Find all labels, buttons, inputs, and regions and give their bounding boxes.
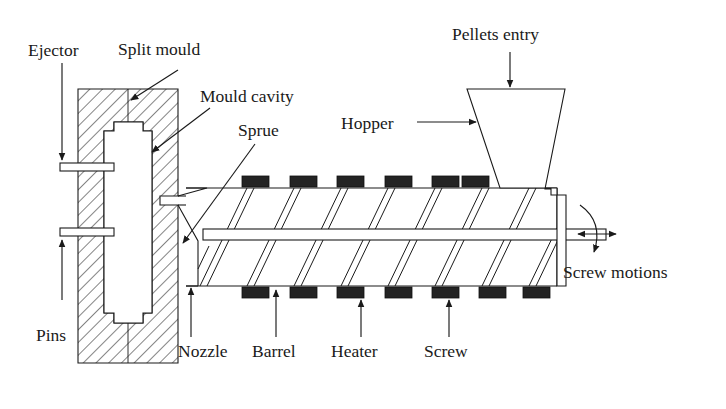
heater-block [432, 176, 459, 187]
heater-block [523, 287, 550, 298]
label-pellets-entry: Pellets entry [452, 24, 539, 44]
label-screw-motions: Screw motions [563, 262, 668, 282]
screw-shaft-rod [203, 229, 606, 240]
nozzle-upper-taper [178, 188, 207, 196]
heater-block [337, 287, 364, 298]
heater-block [290, 287, 317, 298]
heater-block [290, 176, 317, 187]
label-nozzle: Nozzle [178, 341, 228, 361]
label-split-mould: Split mould [118, 39, 200, 59]
label-pins: Pins [36, 325, 66, 345]
heater-block [385, 176, 412, 187]
label-barrel: Barrel [252, 341, 296, 361]
split-mould-assembly [78, 89, 178, 363]
heater-block [385, 287, 412, 298]
label-mould-cavity: Mould cavity [200, 86, 294, 106]
nozzle-lower-taper [178, 205, 198, 286]
label-sprue: Sprue [238, 120, 279, 140]
heater-block [337, 176, 364, 187]
label-hopper: Hopper [341, 113, 394, 133]
heater-block [462, 176, 489, 187]
heater-block [432, 287, 459, 298]
screw-shaft [203, 229, 606, 240]
ejector-pin-lower [60, 228, 114, 236]
heater-block [242, 287, 269, 298]
label-heater: Heater [331, 341, 378, 361]
heater-bands-bottom [242, 287, 550, 298]
heater-block [242, 176, 269, 187]
mould-cavity-outline [104, 122, 152, 323]
ejector-pin-upper [60, 163, 114, 171]
heater-bands-top [242, 176, 489, 187]
label-ejector: Ejector [28, 40, 79, 60]
screw-flight [198, 246, 209, 269]
label-screw: Screw [424, 341, 468, 361]
injection-moulding-diagram: Ejector Split mould Mould cavity Sprue H… [0, 0, 726, 409]
heater-block [479, 287, 506, 298]
diagram-canvas: Ejector Split mould Mould cavity Sprue H… [0, 0, 726, 409]
